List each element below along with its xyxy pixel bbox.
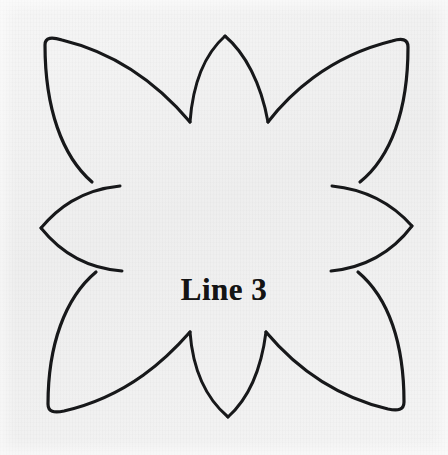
petal-top-left-large (45, 38, 190, 182)
petal-top-center-left-edge (190, 36, 225, 122)
petal-bottom-center-right-edge (228, 332, 266, 417)
petal-right-center-top-edge (332, 186, 412, 226)
petal-bottom-center-left-edge (190, 332, 228, 417)
petal-left-center-top-edge (41, 186, 120, 228)
petal-left-center-bottom-edge (41, 228, 122, 271)
scanned-figure-page: Line 3 (0, 0, 448, 455)
floral-template-figure (0, 0, 448, 455)
figure-caption-label: Line 3 (0, 272, 448, 308)
petal-right-center-bottom-edge (331, 226, 412, 271)
petal-top-right-large (268, 39, 408, 182)
petal-top-center-right-edge (225, 36, 268, 122)
